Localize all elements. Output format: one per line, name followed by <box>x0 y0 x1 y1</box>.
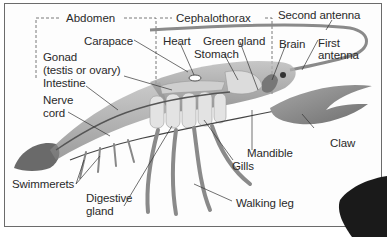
label-first-antenna-line2: antenna <box>318 49 359 61</box>
label-second-antenna: Second antenna <box>278 9 360 21</box>
label-swimmerets: Swimmerets <box>12 178 74 190</box>
label-intestine: Intestine <box>43 77 86 89</box>
tail-fan <box>14 143 59 171</box>
region-label-cephalothorax: Cephalothorax <box>174 12 253 24</box>
label-heart: Heart <box>163 35 191 47</box>
label-walking-leg: Walking leg <box>236 197 294 209</box>
label-stomach: Stomach <box>194 48 239 60</box>
label-carapace: Carapace <box>84 35 133 47</box>
label-gonad-line2: (testis or ovary) <box>43 64 121 76</box>
label-gills: Gills <box>232 160 254 172</box>
label-gonad-line1: Gonad <box>43 51 77 63</box>
region-label-abdomen: Abdomen <box>64 12 117 24</box>
label-brain: Brain <box>279 38 305 50</box>
label-digestive-gland-line2: gland <box>86 205 114 217</box>
claw-shape <box>270 85 372 124</box>
label-first-antenna-line1: First <box>318 37 340 49</box>
dark-blob <box>339 176 387 237</box>
eye <box>280 72 286 78</box>
label-digestive-gland-line1: Digestive <box>86 192 132 204</box>
label-nerve-cord-line2: cord <box>43 107 65 119</box>
label-claw: Claw <box>330 137 355 149</box>
label-green-gland: Green gland <box>203 35 265 47</box>
heart-organ <box>189 75 201 81</box>
label-nerve-cord-line1: Nerve <box>43 94 73 106</box>
label-mandible: Mandible <box>247 147 293 159</box>
swimmerets-shape <box>80 140 134 178</box>
